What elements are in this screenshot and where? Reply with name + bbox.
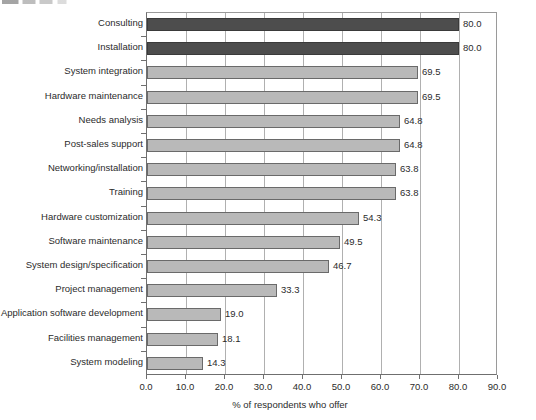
bar-row: 19.0 (147, 303, 498, 326)
bar-value-label: 64.8 (404, 114, 423, 127)
x-tick (224, 375, 225, 379)
bar-row: 63.8 (147, 158, 498, 181)
bar-value-label: 49.5 (344, 235, 363, 248)
value-axis-ticks (146, 375, 498, 380)
x-tick-label: 10.0 (176, 381, 195, 393)
bar-chart-figure: ConsultingInstallationSystem integration… (0, 0, 536, 420)
bar-value-label: 18.1 (222, 332, 241, 345)
bar-row: 80.0 (147, 37, 498, 60)
bar-value-label: 80.0 (463, 41, 482, 54)
bar-needs-analysis (147, 115, 400, 128)
bar-value-label: 19.0 (225, 307, 244, 320)
x-tick-label: 50.0 (332, 381, 351, 393)
x-tick-label: 70.0 (410, 381, 429, 393)
bar-value-label: 46.7 (333, 259, 352, 272)
bar-row: 64.8 (147, 110, 498, 133)
x-tick (497, 375, 498, 379)
bar-row: 64.8 (147, 134, 498, 157)
x-tick-label: 80.0 (449, 381, 468, 393)
bar-software-maintenance (147, 236, 340, 249)
bar-row: 69.5 (147, 86, 498, 109)
bar-value-label: 64.8 (404, 138, 423, 151)
bar-value-label: 69.5 (422, 90, 441, 103)
bar-hardware-maintenance (147, 91, 418, 104)
plot-area: 80.080.069.569.564.864.863.863.854.349.5… (146, 12, 497, 375)
x-tick (263, 375, 264, 379)
x-tick (185, 375, 186, 379)
x-tick (146, 375, 147, 379)
x-tick (302, 375, 303, 379)
bar-row: 49.5 (147, 231, 498, 254)
bar-consulting (147, 18, 459, 31)
bar-facilities-management (147, 333, 218, 346)
category-axis-ticks (0, 12, 146, 375)
bar-training (147, 187, 396, 200)
bar-row: 33.3 (147, 279, 498, 302)
x-tick (341, 375, 342, 379)
bar-system-design-specification (147, 260, 329, 273)
x-tick-label: 20.0 (215, 381, 234, 393)
value-axis-tick-labels: 0.010.020.030.040.050.060.070.080.090.0 (0, 381, 536, 395)
bar-networking-installation (147, 163, 396, 176)
bar-value-label: 54.3 (363, 211, 382, 224)
x-tick-label: 40.0 (293, 381, 312, 393)
bar-row: 69.5 (147, 61, 498, 84)
x-tick-label: 0.0 (139, 381, 152, 393)
bar-post-sales-support (147, 139, 400, 152)
bar-value-label: 14.3 (207, 356, 226, 369)
bar-row: 80.0 (147, 13, 498, 36)
bar-row: 18.1 (147, 328, 498, 351)
bar-application-software-development (147, 308, 221, 321)
x-tick (458, 375, 459, 379)
bar-project-management (147, 284, 277, 297)
bar-row: 54.3 (147, 207, 498, 230)
bar-row: 46.7 (147, 255, 498, 278)
x-tick-label: 60.0 (371, 381, 390, 393)
bar-system-integration (147, 66, 418, 79)
x-tick (380, 375, 381, 379)
x-axis-title: % of respondents who offer (0, 399, 536, 411)
bar-row: 14.3 (147, 352, 498, 375)
cropped-caption-remnant (2, 0, 74, 4)
x-tick-label: 30.0 (254, 381, 273, 393)
bar-value-label: 80.0 (463, 17, 482, 30)
bar-installation (147, 42, 459, 55)
bar-system-modeling (147, 357, 203, 370)
bar-value-label: 69.5 (422, 65, 441, 78)
x-tick-label: 90.0 (488, 381, 507, 393)
bar-row: 63.8 (147, 182, 498, 205)
bar-value-label: 33.3 (281, 283, 300, 296)
x-tick (419, 375, 420, 379)
bar-value-label: 63.8 (400, 162, 419, 175)
bar-value-label: 63.8 (400, 186, 419, 199)
bar-hardware-customization (147, 212, 359, 225)
